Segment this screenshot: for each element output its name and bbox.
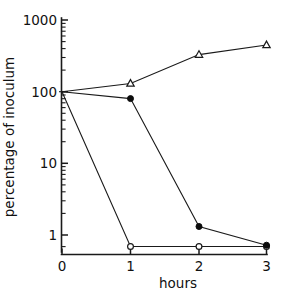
x-tick-label-3: 3 — [262, 258, 271, 274]
chart-figure: 1000 100 10 1 percentage of inoculum 0 1… — [0, 0, 284, 296]
x-axis-title: hours — [159, 275, 197, 291]
y-tick-label-1: 1 — [48, 227, 57, 243]
y-tick-label-1000: 1000 — [23, 12, 57, 28]
y-axis-title: percentage of inoculum — [1, 57, 17, 217]
y-tick-label-100: 100 — [31, 84, 57, 100]
marker-open-circle-1h — [128, 244, 134, 250]
marker-filled-circle-2h — [196, 224, 202, 230]
marker-open-circle-2h — [196, 244, 202, 250]
x-tick-label-2: 2 — [195, 258, 204, 274]
y-tick-label-10: 10 — [40, 155, 57, 171]
x-tick-label-1: 1 — [126, 258, 135, 274]
chart-background — [0, 0, 284, 296]
x-tick-label-0: 0 — [58, 258, 67, 274]
marker-filled-circle-1h — [128, 96, 134, 102]
marker-filled-circle-3h — [264, 242, 270, 248]
